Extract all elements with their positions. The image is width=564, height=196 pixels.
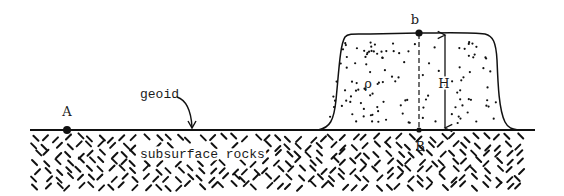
geoid-pointer-arrow <box>177 97 192 127</box>
subsurface-rocks-hatching <box>31 133 524 191</box>
mountain-outline <box>318 33 518 130</box>
label-B: B <box>415 139 425 154</box>
point-B-marker <box>416 127 421 132</box>
point-A-marker <box>63 126 71 134</box>
mountain-stipple <box>329 41 497 124</box>
label-b: b <box>411 12 419 27</box>
label-geoid: geoid <box>140 87 179 102</box>
label-subsurface-rocks: subsurface rocks <box>140 147 265 162</box>
label-H: H <box>438 76 449 91</box>
geoid-topography-diagram: A b B H ρ geoid subsurface rocks <box>0 0 564 196</box>
point-b-marker <box>415 29 422 36</box>
label-rho: ρ <box>364 76 372 91</box>
label-A: A <box>61 104 72 119</box>
